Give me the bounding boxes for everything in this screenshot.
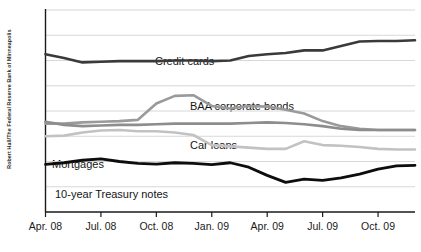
series-line-10-year-treasury-notes [46, 159, 416, 182]
series-line-credit-cards [46, 40, 416, 62]
plot-svg [0, 0, 421, 252]
series-line-mortgages [46, 130, 416, 150]
chart-container: Robert Hall/The Federal Reserve Bank of … [0, 0, 421, 252]
